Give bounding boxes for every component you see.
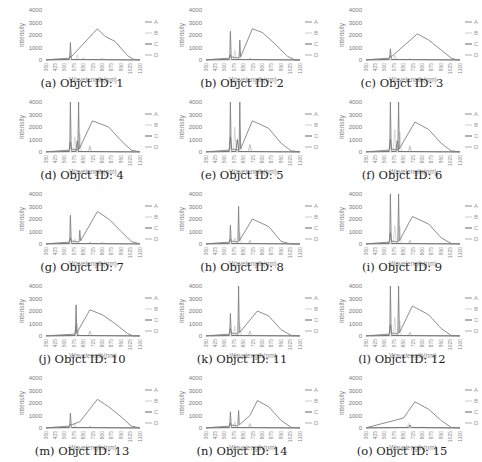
legend-item: B: [154, 122, 158, 128]
x-tick-label: 425: [52, 247, 58, 256]
legend-item: A: [474, 111, 478, 117]
x-tick-label: 425: [52, 431, 58, 440]
y-tick-label: 2000: [349, 308, 363, 314]
y-tick-label: 4000: [29, 375, 43, 381]
y-tick-label: 3000: [189, 204, 203, 210]
x-tick-label: 1025: [127, 247, 133, 258]
y-tick-label: 0: [359, 425, 363, 431]
chart-caption: (a) Objct ID: 1: [2, 76, 162, 90]
x-tick-label: 875: [108, 247, 114, 256]
x-tick-label: 350: [363, 63, 369, 72]
x-tick-label: 650: [80, 155, 86, 164]
x-tick-label: 1100: [457, 339, 463, 350]
y-tick-label: 2000: [189, 124, 203, 130]
x-tick-label: 1025: [447, 247, 453, 258]
legend-item: B: [474, 122, 478, 128]
x-tick-label: 725: [410, 63, 416, 72]
chart-caption: (e) Objct ID: 5: [162, 168, 322, 182]
series-A-line: [206, 207, 300, 245]
x-tick-label: 500: [221, 339, 227, 348]
x-tick-label: 800: [419, 155, 425, 164]
x-tick-label: 425: [52, 63, 58, 72]
x-tick-label: 1100: [297, 339, 303, 350]
y-tick-label: 2000: [189, 400, 203, 406]
series-C-line: [46, 326, 140, 336]
y-tick-label: 3000: [349, 204, 363, 210]
series-B-line: [46, 133, 140, 152]
chart-panel: 01000200030004000Intensity35042550057565…: [162, 184, 322, 276]
series-B-line: [366, 225, 460, 244]
chart-panel: 01000200030004000Intensity35042550057565…: [322, 0, 482, 92]
legend-item: A: [154, 203, 158, 209]
legend-item: A: [314, 19, 318, 25]
x-tick-label: 800: [259, 431, 265, 440]
x-tick-label: 650: [240, 339, 246, 348]
chart-panel: 01000200030004000Intensity35042550057565…: [322, 368, 482, 460]
x-tick-label: 425: [212, 155, 218, 164]
x-tick-label: 950: [118, 339, 124, 348]
y-tick-label: 1000: [349, 413, 363, 419]
legend-item: C: [154, 225, 159, 231]
x-tick-label: 425: [372, 63, 378, 72]
y-tick-label: 2000: [349, 400, 363, 406]
series-A-line: [366, 402, 460, 428]
series-A-line: [366, 34, 460, 60]
x-tick-label: 875: [268, 247, 274, 256]
y-tick-label: 4000: [349, 375, 363, 381]
legend-item: A: [314, 203, 318, 209]
y-tick-label: 0: [39, 425, 43, 431]
y-tick-label: 1000: [189, 137, 203, 143]
x-tick-label: 350: [363, 247, 369, 256]
series-A-line: [46, 29, 140, 60]
x-tick-label: 425: [372, 431, 378, 440]
y-axis-label: Intensity: [338, 390, 346, 415]
series-C-line: [46, 141, 140, 152]
legend-item: C: [314, 41, 319, 47]
x-tick-label: 650: [80, 339, 86, 348]
x-tick-label: 500: [61, 63, 67, 72]
chart-panel: 01000200030004000Intensity35042550057565…: [322, 92, 482, 184]
series-C-line: [46, 56, 140, 60]
legend-item: C: [154, 41, 159, 47]
y-tick-label: 0: [39, 149, 43, 155]
legend-item: B: [154, 306, 158, 312]
chart-caption: (o) Objct ID: 15: [322, 444, 482, 458]
series-A-line: [206, 286, 300, 336]
x-tick-label: 1025: [287, 155, 293, 166]
x-tick-label: 650: [240, 431, 246, 440]
y-tick-label: 1000: [349, 45, 363, 51]
y-tick-label: 4000: [189, 375, 203, 381]
x-tick-label: 500: [221, 63, 227, 72]
legend-item: C: [474, 225, 479, 231]
y-tick-label: 4000: [189, 99, 203, 105]
y-axis-label: Intensity: [338, 22, 346, 47]
legend-item: A: [314, 387, 318, 393]
x-tick-label: 500: [61, 155, 67, 164]
x-tick-label: 725: [410, 431, 416, 440]
legend-item: A: [154, 295, 158, 301]
x-tick-label: 725: [410, 339, 416, 348]
legend-item: B: [474, 398, 478, 404]
y-tick-label: 4000: [29, 99, 43, 105]
chart-panel: 01000200030004000Intensity35042550057565…: [2, 92, 162, 184]
y-tick-label: 3000: [29, 204, 43, 210]
x-tick-label: 1025: [127, 339, 133, 350]
y-tick-label: 3000: [29, 112, 43, 118]
x-tick-label: 950: [438, 339, 444, 348]
x-tick-label: 800: [419, 63, 425, 72]
x-tick-label: 950: [118, 155, 124, 164]
y-tick-label: 2000: [29, 124, 43, 130]
y-tick-label: 2000: [349, 216, 363, 222]
x-tick-label: 500: [61, 431, 67, 440]
x-tick-label: 500: [381, 247, 387, 256]
x-tick-label: 725: [90, 339, 96, 348]
x-tick-label: 1100: [297, 247, 303, 258]
y-tick-label: 4000: [29, 191, 43, 197]
figure-grid: 01000200030004000Intensity35042550057565…: [0, 0, 482, 462]
legend-item: C: [474, 409, 479, 415]
x-tick-label: 1025: [447, 63, 453, 74]
x-tick-label: 350: [43, 339, 49, 348]
y-tick-label: 2000: [29, 400, 43, 406]
x-tick-label: 1025: [127, 431, 133, 442]
x-tick-label: 875: [268, 63, 274, 72]
